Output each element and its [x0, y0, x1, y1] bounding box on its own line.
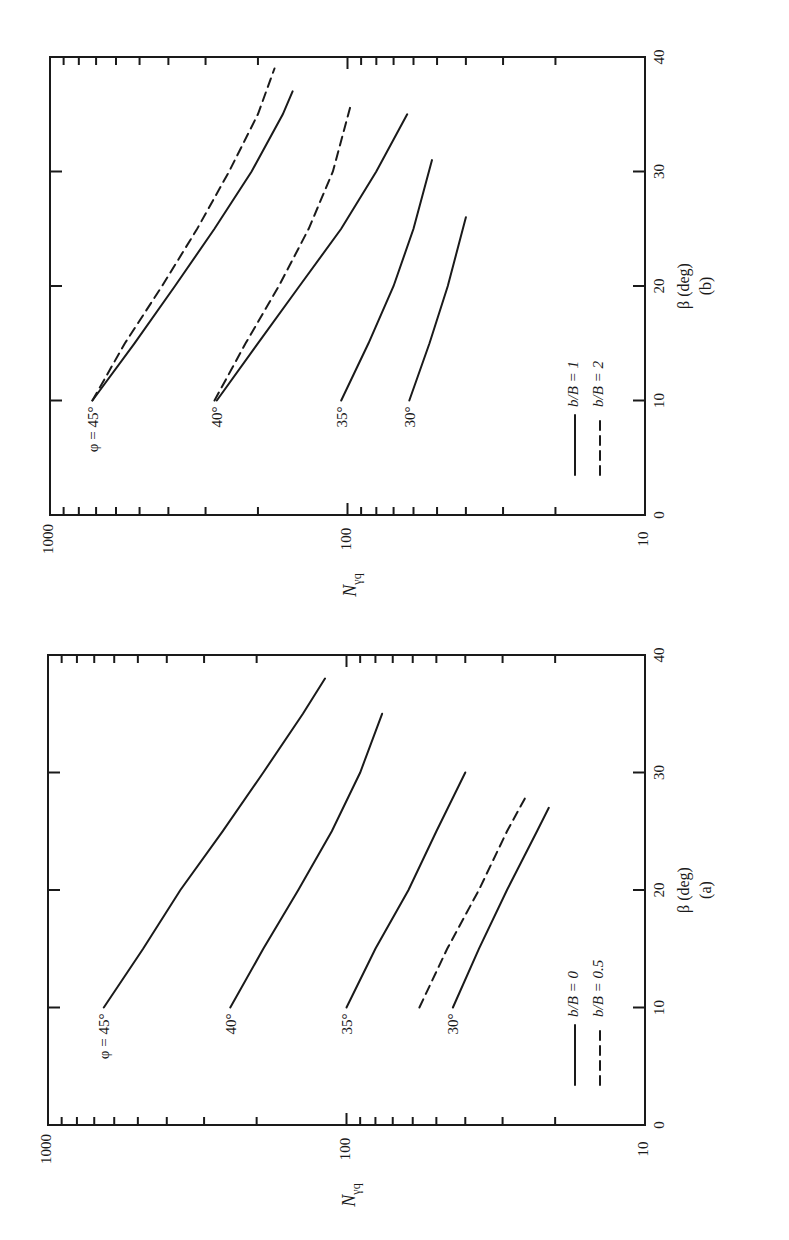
curve--40-b-b-2: [215, 103, 352, 401]
curve-label: 30°: [445, 1014, 461, 1035]
beta-tick-label: 0: [651, 1121, 667, 1129]
beta-tick-label: 20: [651, 279, 667, 294]
x-axis-label: β (deg): [675, 867, 693, 913]
curve--30-b-b-0: [453, 808, 549, 1008]
beta-tick-label: 10: [651, 1000, 667, 1015]
n-tick-label: 100: [338, 528, 354, 551]
x-axis-label: β (deg): [675, 263, 693, 309]
n-tick-label: 1000: [38, 1134, 54, 1164]
curve-label: φ = 45°: [85, 407, 101, 453]
curve--35-b-b-0: [347, 773, 466, 1008]
y-axis-label-subscript: γq: [349, 573, 363, 585]
curve--30-b-b-1: [409, 217, 466, 400]
legend-solid-label: b/B = 0: [565, 971, 581, 1017]
legend-solid-label: b/B = 1: [565, 361, 581, 407]
beta-tick-label: 40: [651, 50, 667, 65]
curve--40-b-b-0: [230, 714, 382, 1008]
figure-canvas: 101001000010203040Nγqβ (deg)(a)φ = 45°40…: [0, 0, 789, 1240]
beta-tick-label: 30: [651, 164, 667, 179]
legend-dashed-label: b/B = 0.5: [590, 959, 606, 1017]
curve-label: 35°: [334, 407, 350, 428]
panel-caption: (a): [697, 881, 715, 899]
panel-a: 101001000010203040Nγqβ (deg)(a)φ = 45°40…: [38, 648, 714, 1208]
n-tick-label: 10: [635, 532, 651, 547]
n-tick-label: 100: [337, 1138, 353, 1161]
curve--45-b-b-0: [104, 679, 325, 1008]
curve--45-b-b-1: [92, 91, 292, 400]
curve-label: 40°: [209, 407, 225, 428]
curve--30-b-b-0-5: [419, 796, 526, 1008]
curve--35-b-b-1: [341, 160, 432, 400]
curve--45-b-b-2: [92, 69, 274, 401]
curve-label: 30°: [402, 407, 418, 428]
n-tick-label: 1000: [40, 524, 56, 554]
n-tick-label: 10: [635, 1142, 651, 1157]
beta-tick-label: 0: [651, 511, 667, 519]
plot-frame: [48, 655, 645, 1125]
curve-label: φ = 45°: [96, 1014, 112, 1060]
legend-dashed-label: b/B = 2: [590, 361, 606, 407]
y-axis-label: Nγq: [339, 1183, 363, 1207]
beta-tick-label: 20: [651, 883, 667, 898]
beta-tick-label: 30: [651, 765, 667, 780]
curve-label: 35°: [339, 1014, 355, 1035]
panel-caption: (b): [697, 277, 715, 296]
y-axis-label-subscript: γq: [348, 1183, 362, 1195]
curve--40-b-b-1: [217, 114, 407, 400]
panel-b: 101001000010203040Nγqβ (deg)(b)φ = 45°40…: [40, 50, 714, 598]
curve-label: 40°: [223, 1014, 239, 1035]
y-axis-label: Nγq: [340, 573, 364, 597]
plot-frame: [50, 57, 645, 515]
beta-tick-label: 40: [651, 648, 667, 663]
beta-tick-label: 10: [651, 393, 667, 408]
